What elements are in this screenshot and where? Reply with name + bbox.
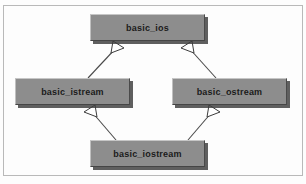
class-node-label: basic_istream xyxy=(41,87,104,97)
uml-class-diagram: basic_ios basic_istream basic_ostream ba… xyxy=(0,0,306,184)
class-node-label: basic_iostream xyxy=(113,149,181,159)
class-node-label: basic_ostream xyxy=(197,87,263,97)
hollow-triangle-arrowhead-icon xyxy=(207,105,220,117)
class-node-basic-iostream[interactable]: basic_iostream xyxy=(90,140,205,167)
class-node-basic-ios[interactable]: basic_ios xyxy=(90,14,205,41)
class-node-label: basic_ios xyxy=(126,23,169,33)
edge-iostream-to-ostream xyxy=(188,105,220,140)
edge-iostream-to-istream xyxy=(84,105,116,140)
edge-istream-to-ios xyxy=(88,41,124,78)
hollow-triangle-arrowhead-icon xyxy=(84,105,97,117)
hollow-triangle-arrowhead-icon xyxy=(111,41,124,53)
hollow-triangle-arrowhead-icon xyxy=(181,41,194,53)
class-node-basic-istream[interactable]: basic_istream xyxy=(15,78,130,105)
edge-ostream-to-ios xyxy=(181,41,216,78)
class-node-basic-ostream[interactable]: basic_ostream xyxy=(172,78,287,105)
